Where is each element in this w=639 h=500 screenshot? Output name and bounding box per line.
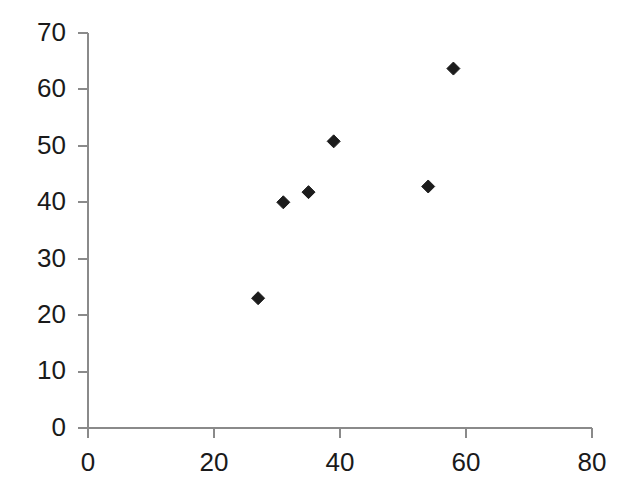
x-tick-label: 40 [326,447,355,477]
x-tick-label: 60 [452,447,481,477]
y-tick-label: 70 [37,17,66,47]
x-tick-label: 80 [578,447,607,477]
y-tick-label: 0 [52,412,66,442]
y-tick-label: 20 [37,299,66,329]
scatter-chart: 010203040506070 020406080 [0,0,639,500]
y-tick-label: 40 [37,186,66,216]
chart-background [0,0,639,500]
y-tick-label: 30 [37,243,66,273]
x-tick-label: 0 [81,447,95,477]
y-tick-label: 60 [37,73,66,103]
x-tick-label: 20 [200,447,229,477]
y-tick-label: 10 [37,355,66,385]
y-tick-label: 50 [37,130,66,160]
plot-area: 010203040506070 020406080 [0,0,639,500]
